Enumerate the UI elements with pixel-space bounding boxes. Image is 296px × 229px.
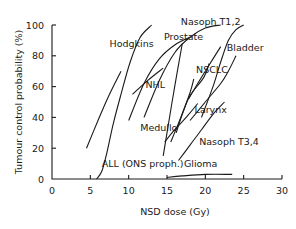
label-prostate: Prostate (164, 31, 203, 42)
x-tick-label: 30 (276, 185, 288, 196)
x-tick-label: 15 (161, 185, 173, 196)
curve-medullo-line-1 (163, 44, 182, 156)
label-bladder: Bladder (227, 42, 264, 53)
label-hodgkins: Hodgkins (110, 38, 154, 49)
y-tick-label: 60 (32, 81, 44, 92)
label-medullo: Medullo (140, 122, 177, 133)
x-tick-label: 0 (49, 185, 55, 196)
x-tick-label: 20 (199, 185, 211, 196)
x-axis-title: NSD dose (Gy) (140, 206, 210, 217)
label-nasoph-t3-4: Nasoph T3,4 (199, 136, 259, 147)
tcp-chart: 051015202530020406080100 HodgkinsProstat… (0, 0, 296, 229)
curve-labels: HodgkinsProstateNasoph T1,2NHLBladderNSC… (102, 16, 264, 169)
x-tick-label: 5 (87, 185, 93, 196)
curve-all-cns-proph (87, 71, 122, 148)
y-tick-label: 80 (32, 50, 44, 61)
label-nsclc: NSCLC (196, 64, 228, 75)
y-tick-label: 0 (38, 174, 44, 185)
curve-glioma (167, 174, 232, 177)
y-tick-label: 20 (32, 143, 44, 154)
label-all-ons-proph: ALL (ONS proph.) (102, 158, 184, 169)
x-tick-label: 10 (123, 185, 135, 196)
label-nasoph-t1-2: Nasoph T1,2 (181, 16, 241, 27)
y-tick-label: 100 (26, 20, 44, 31)
y-tick-label: 40 (32, 112, 44, 123)
x-tick-label: 25 (238, 185, 250, 196)
label-larynx: Larynx (195, 104, 228, 115)
label-glioma: Glioma (184, 158, 218, 169)
label-nhl: NHL (146, 79, 166, 90)
y-axis-title: Tumour control probability (%) (13, 30, 24, 176)
